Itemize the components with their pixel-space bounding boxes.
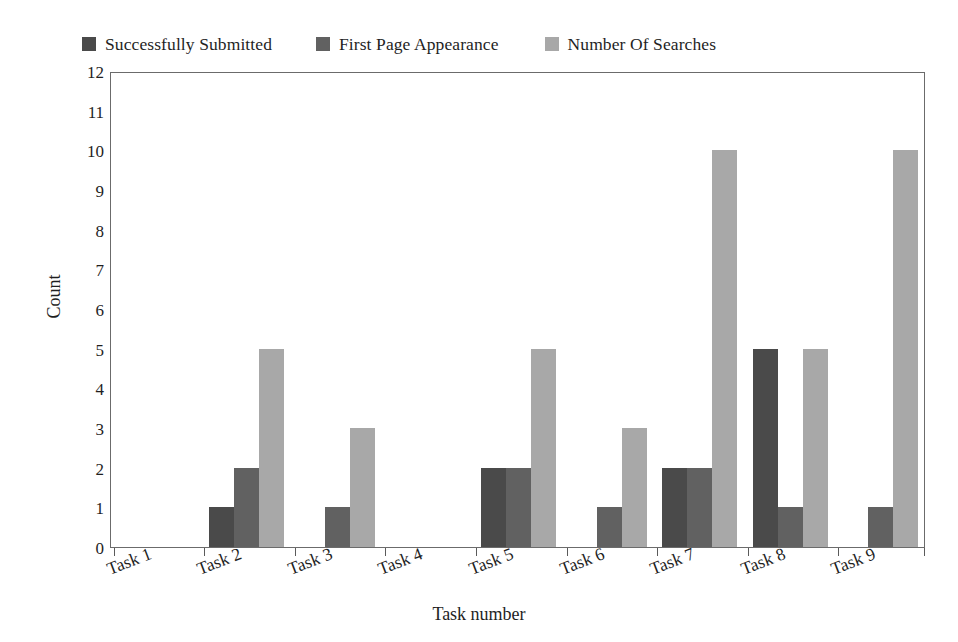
bar-chart: Successfully Submitted First Page Appear… — [0, 0, 958, 642]
y-axis-tick-label: 12 — [70, 64, 104, 81]
x-axis-title: Task number — [0, 604, 958, 625]
bar-group — [473, 73, 564, 547]
bar-group — [564, 73, 655, 547]
y-axis-tick-label: 6 — [70, 302, 104, 319]
bar[interactable] — [753, 349, 778, 547]
bar[interactable] — [531, 349, 556, 547]
bar[interactable] — [350, 428, 375, 547]
plot-frame — [110, 72, 925, 548]
bar[interactable] — [481, 468, 506, 547]
y-axis-tick-label: 1 — [70, 500, 104, 517]
legend-item-number-of-searches[interactable]: Number Of Searches — [545, 32, 717, 56]
bar[interactable] — [506, 468, 531, 547]
chart-legend: Successfully Submitted First Page Appear… — [80, 32, 880, 56]
legend-swatch-icon — [316, 37, 330, 51]
bar-group — [383, 73, 474, 547]
legend-label: First Page Appearance — [339, 34, 499, 54]
y-axis-tick-label: 10 — [70, 143, 104, 160]
bar[interactable] — [209, 507, 234, 547]
y-axis-tick-label: 3 — [70, 421, 104, 438]
legend-label: Successfully Submitted — [105, 34, 272, 54]
legend-label: Number Of Searches — [568, 34, 717, 54]
bar-group — [835, 73, 926, 547]
bar-group — [654, 73, 745, 547]
y-axis-tick-label: 11 — [70, 104, 104, 121]
y-axis-tick-labels: 0123456789101112 — [62, 72, 104, 548]
bar[interactable] — [803, 349, 828, 547]
y-axis-tick-label: 4 — [70, 381, 104, 398]
y-axis-tick-label: 7 — [70, 262, 104, 279]
bar[interactable] — [868, 507, 893, 547]
bar[interactable] — [259, 349, 284, 547]
y-axis-tick-label: 0 — [70, 540, 104, 557]
bar[interactable] — [662, 468, 687, 547]
legend-swatch-icon — [82, 37, 96, 51]
legend-item-successfully-submitted[interactable]: Successfully Submitted — [82, 32, 272, 56]
x-axis-tick-mark — [924, 548, 925, 556]
plot-area — [111, 73, 924, 547]
bar[interactable] — [597, 507, 622, 547]
bar[interactable] — [325, 507, 350, 547]
bar-group — [111, 73, 202, 547]
y-axis-tick-label: 2 — [70, 461, 104, 478]
y-axis-tick-label: 5 — [70, 342, 104, 359]
legend-swatch-icon — [545, 37, 559, 51]
bar[interactable] — [622, 428, 647, 547]
bar-group — [292, 73, 383, 547]
legend-item-first-page-appearance[interactable]: First Page Appearance — [316, 32, 499, 56]
bar[interactable] — [687, 468, 712, 547]
bar[interactable] — [893, 150, 918, 547]
y-axis-tick-label: 8 — [70, 223, 104, 240]
bar[interactable] — [778, 507, 803, 547]
bar-group — [745, 73, 836, 547]
y-axis-tick-label: 9 — [70, 183, 104, 200]
x-axis-tick-labels: Task 1Task 2Task 3Task 4Task 5Task 6Task… — [110, 556, 926, 604]
bar[interactable] — [712, 150, 737, 547]
bar[interactable] — [234, 468, 259, 547]
bar-group — [202, 73, 293, 547]
